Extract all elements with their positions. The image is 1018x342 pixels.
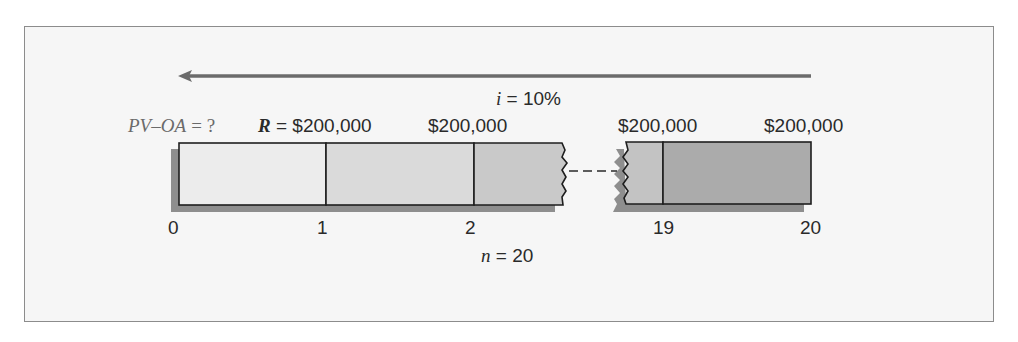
periods-label: n = 20: [481, 246, 533, 265]
interest-rate-label: i = 10%: [496, 89, 561, 108]
payment-label-1: R = $200,000: [258, 116, 372, 135]
tick-20: 20: [800, 218, 821, 237]
pv-oa-symbol: PV–OA: [128, 115, 186, 136]
timeline-bar-right: [623, 142, 811, 204]
periods-value: 20: [512, 245, 533, 266]
payment-symbol: R: [258, 115, 271, 136]
arrow-left-icon: [178, 70, 811, 82]
tick-2: 2: [465, 218, 476, 237]
timeline-graphic: [0, 0, 1018, 342]
timeline-bar-left: [179, 143, 567, 205]
tick-0: 0: [168, 218, 179, 237]
pv-oa-eq: = ?: [191, 115, 215, 136]
payment-label-19: $200,000: [618, 116, 697, 135]
interest-symbol: i: [496, 88, 501, 109]
payment-amount-1: $200,000: [292, 115, 371, 136]
periods-eq: =: [496, 245, 507, 266]
payment-label-2: $200,000: [428, 116, 507, 135]
tick-19: 19: [653, 218, 674, 237]
interest-value: 10%: [523, 88, 561, 109]
payment-eq: =: [276, 115, 287, 136]
payment-label-20: $200,000: [764, 116, 843, 135]
pv-oa-label: PV–OA = ?: [128, 116, 215, 135]
tick-1: 1: [317, 218, 328, 237]
periods-symbol: n: [481, 245, 491, 266]
interest-eq: =: [507, 88, 518, 109]
